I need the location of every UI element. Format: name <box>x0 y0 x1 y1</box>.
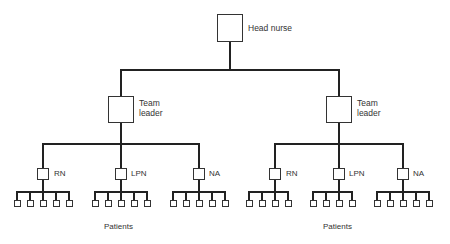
patient-connector-line <box>402 191 404 200</box>
team-leader-box-right <box>326 96 352 123</box>
patient-box <box>66 200 73 207</box>
patient-box <box>246 200 253 207</box>
patient-box <box>374 200 381 207</box>
patient-connector-line <box>16 191 18 200</box>
patient-box <box>413 200 420 207</box>
patient-connector-line <box>338 191 340 200</box>
connector-line <box>338 69 340 96</box>
lpn-box-right <box>333 168 345 180</box>
connector-line <box>274 143 276 168</box>
patient-box <box>285 200 292 207</box>
patient-connector-line <box>211 191 213 200</box>
patient-box <box>196 200 203 207</box>
na-box-right <box>397 168 409 180</box>
patient-connector-line <box>312 191 353 193</box>
patient-box <box>14 200 21 207</box>
patient-box <box>222 200 229 207</box>
patient-connector-line <box>312 191 314 200</box>
patient-box <box>170 200 177 207</box>
connector-line <box>120 69 122 96</box>
head-nurse-label: Head nurse <box>248 23 292 33</box>
org-chart-diagram: Head nurse Team leader Team leader RN LP… <box>0 0 450 244</box>
patient-connector-line <box>351 191 353 200</box>
patient-box <box>53 200 60 207</box>
connector-line <box>198 143 200 168</box>
patient-box <box>349 200 356 207</box>
team-leader-label-right-line2: leader <box>357 108 381 118</box>
lpn-label-right: LPN <box>349 169 365 179</box>
patient-box <box>209 200 216 207</box>
patient-connector-line <box>376 191 378 200</box>
patient-connector-line <box>389 191 391 200</box>
patient-connector-line <box>55 191 57 200</box>
patient-connector-line <box>68 191 70 200</box>
patient-box <box>336 200 343 207</box>
team-leader-label-left-line2: leader <box>139 108 163 118</box>
patient-connector-line <box>325 191 327 200</box>
patient-box <box>92 200 99 207</box>
connector-line <box>338 143 340 168</box>
patient-connector-line <box>274 191 276 200</box>
connector-line <box>120 143 122 168</box>
patient-box <box>27 200 34 207</box>
patient-connector-line <box>29 191 31 200</box>
patient-connector-line <box>120 191 122 200</box>
patient-connector-line <box>198 191 200 200</box>
patient-box <box>105 200 112 207</box>
patients-label-left: Patients <box>104 222 133 232</box>
patient-connector-line <box>185 191 187 200</box>
patient-box <box>323 200 330 207</box>
na-label-left: NA <box>209 169 220 179</box>
rn-box-left <box>37 168 49 180</box>
patient-box <box>131 200 138 207</box>
patient-connector-line <box>133 191 135 200</box>
patient-connector-line <box>428 191 430 200</box>
patient-connector-line <box>287 191 289 200</box>
connector-line <box>338 123 340 144</box>
team-leader-label-left-line1: Team <box>139 98 160 108</box>
connector-line <box>229 42 231 70</box>
team-leader-box-left <box>108 96 134 123</box>
patient-connector-line <box>146 191 148 200</box>
team-leader-label-right-line1: Team <box>357 98 378 108</box>
patient-box <box>272 200 279 207</box>
patient-connector-line <box>94 191 96 200</box>
patient-box <box>387 200 394 207</box>
connector-line <box>42 143 44 168</box>
na-box-left <box>193 168 205 180</box>
head-nurse-box <box>217 14 243 42</box>
patient-connector-line <box>224 191 226 200</box>
lpn-label-left: LPN <box>131 169 147 179</box>
patient-connector-line <box>415 191 417 200</box>
patient-box <box>118 200 125 207</box>
patient-box <box>426 200 433 207</box>
rn-box-right <box>269 168 281 180</box>
connector-line <box>120 123 122 144</box>
patient-connector-line <box>261 191 263 200</box>
na-label-right: NA <box>413 169 424 179</box>
patient-connector-line <box>107 191 109 200</box>
patient-connector-line <box>248 191 250 200</box>
rn-label-left: RN <box>54 169 66 179</box>
patient-box <box>400 200 407 207</box>
patients-label-right: Patients <box>323 222 352 232</box>
patient-box <box>40 200 47 207</box>
connector-line <box>120 69 340 71</box>
patient-box <box>144 200 151 207</box>
patient-connector-line <box>248 191 289 193</box>
lpn-box-left <box>115 168 127 180</box>
patient-box <box>310 200 317 207</box>
patient-connector-line <box>172 191 174 200</box>
patient-connector-line <box>42 191 44 200</box>
rn-label-right: RN <box>286 169 298 179</box>
patient-box <box>183 200 190 207</box>
patient-box <box>259 200 266 207</box>
connector-line <box>402 143 404 168</box>
